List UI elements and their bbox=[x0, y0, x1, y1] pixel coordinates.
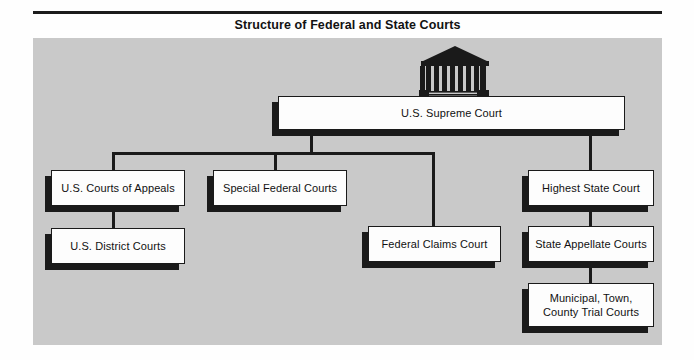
connector-scotus-to-highest-state-court bbox=[589, 130, 592, 171]
node-label: State Appellate Courts bbox=[529, 237, 653, 251]
node-district-courts[interactable]: U.S. District Courts bbox=[51, 228, 185, 264]
connector-bus-to-federal-claims-court bbox=[432, 152, 435, 227]
node-label: U.S. Supreme Court bbox=[395, 106, 508, 120]
connector-bus-to-courts-of-appeals bbox=[112, 152, 115, 171]
diagram-page: Structure of Federal and State Courts bbox=[0, 0, 694, 360]
node-trial-courts[interactable]: Municipal, Town, County Trial Courts bbox=[528, 283, 654, 327]
node-face: State Appellate Courts bbox=[528, 226, 654, 262]
node-courts-of-appeals[interactable]: U.S. Courts of Appeals bbox=[51, 170, 185, 206]
connector-bus-to-special-federal-courts bbox=[274, 152, 277, 171]
node-label: Special Federal Courts bbox=[217, 181, 343, 195]
node-highest-state-court[interactable]: Highest State Court bbox=[528, 170, 654, 206]
node-face: Special Federal Courts bbox=[213, 170, 347, 206]
node-state-appellate-courts[interactable]: State Appellate Courts bbox=[528, 226, 654, 262]
title-rule bbox=[33, 11, 662, 14]
node-face: U.S. District Courts bbox=[51, 228, 185, 264]
node-label: U.S. Courts of Appeals bbox=[55, 181, 180, 195]
node-label: Municipal, Town, County Trial Courts bbox=[537, 291, 645, 319]
node-federal-claims-court[interactable]: Federal Claims Court bbox=[368, 226, 501, 262]
node-supreme-court[interactable]: U.S. Supreme Court bbox=[278, 96, 625, 130]
node-label: Federal Claims Court bbox=[376, 237, 494, 251]
node-label: U.S. District Courts bbox=[64, 239, 172, 253]
node-face: U.S. Courts of Appeals bbox=[51, 170, 185, 206]
node-face: Municipal, Town, County Trial Courts bbox=[528, 283, 654, 327]
node-face: Federal Claims Court bbox=[368, 226, 501, 262]
node-face: U.S. Supreme Court bbox=[278, 96, 625, 130]
node-label: Highest State Court bbox=[536, 181, 646, 195]
supreme-court-building-icon bbox=[419, 46, 491, 102]
node-face: Highest State Court bbox=[528, 170, 654, 206]
page-title: Structure of Federal and State Courts bbox=[33, 16, 662, 34]
node-special-federal-courts[interactable]: Special Federal Courts bbox=[213, 170, 347, 206]
